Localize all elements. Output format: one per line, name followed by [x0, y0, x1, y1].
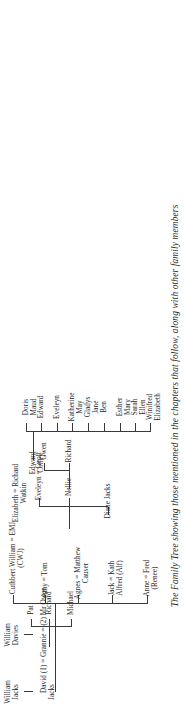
node-ben: Ben: [100, 401, 108, 413]
node-pat: Pat: [27, 605, 35, 614]
node-line: Diane Jacks: [104, 483, 112, 518]
tick-sarah: [135, 423, 136, 432]
node-william-jacks: William Jacks: [4, 680, 21, 704]
node-nellie: Nellie: [65, 478, 73, 496]
node-anne-fred: Anne = Fred (Renee): [143, 560, 160, 597]
node-cuthbert-emj: Cuthbert William = EMJ (CWJ): [9, 522, 26, 594]
node-agnes-matthew: Agnes = Matthew Causer: [74, 547, 91, 599]
node-line: Doris: [22, 399, 30, 416]
node-line: Alfred (Alf): [116, 560, 124, 596]
node-line: Mary: [124, 398, 132, 417]
node-katherine-may: Katherine May: [68, 393, 85, 422]
node-line: Jacks: [12, 680, 20, 704]
node-line: Elizabeth = Richard: [12, 464, 20, 523]
node-line: Causer: [82, 547, 90, 599]
sibling-spine-nellie: [44, 470, 69, 471]
node-line: Watkin: [20, 464, 28, 523]
tick-gladys: [88, 423, 89, 432]
node-line: (CWJ): [17, 522, 25, 594]
node-doris-maud: Doris Maud: [22, 399, 39, 416]
sibling-spine-cwj: [39, 506, 108, 507]
node-line: Ellen: [139, 399, 147, 416]
tick-jack: [112, 595, 113, 604]
tick-ben: [104, 423, 105, 432]
node-line: Anne = Fred: [143, 560, 151, 597]
family-tree-diagram: William Jacks William Davies David (1) =…: [0, 0, 186, 725]
tick-michael: [71, 619, 72, 627]
tick-richard-causer: [49, 619, 50, 627]
node-line: Jack = Kath: [108, 560, 116, 596]
connector-causer-descent: [49, 627, 50, 647]
node-line: Gwen: [40, 442, 48, 459]
node-gladys-jane: Gladys Jane: [84, 397, 101, 418]
connector-cwj-descent: [69, 507, 70, 529]
diagram-caption: The Family Tree showing those mentioned …: [170, 205, 180, 607]
node-line: Elizabeth: [154, 393, 162, 421]
connector-william-davies: [24, 634, 33, 635]
tick-nellie: [69, 498, 70, 507]
node-line: Katherine: [68, 393, 76, 422]
node-line: Gladys: [84, 397, 92, 418]
node-richard-causer: Richard: [45, 591, 53, 614]
tick-doris: [26, 423, 27, 432]
tick-cuthbert: [13, 595, 14, 604]
node-line: Ben: [100, 401, 108, 413]
tick-eveleyn-watkin: [57, 423, 58, 432]
family-tree-page: William Jacks William Davies David (1) =…: [0, 0, 186, 725]
tick-katherine: [72, 423, 73, 432]
rotated-canvas: William Jacks William Davies David (1) =…: [0, 0, 186, 725]
node-richard-nellie: Richard: [65, 439, 73, 462]
node-line: William: [4, 680, 12, 704]
node-michael: Michael: [67, 591, 75, 615]
node-line: Jane: [92, 397, 100, 418]
tick-edward: [41, 423, 42, 432]
node-line: William: [4, 623, 12, 647]
node-jack-kath: Jack = Kath Alfred (Alf): [108, 560, 125, 596]
node-line: Esther: [116, 398, 124, 417]
tick-esther: [120, 423, 121, 432]
node-elizabeth-watkin: Elizabeth = Richard Watkin: [12, 464, 29, 523]
tick-richard-nellie: [69, 463, 70, 471]
node-esther-mary: Esther Mary: [116, 398, 133, 417]
node-david-surname: Jacks: [48, 684, 56, 700]
tick-winifred: [150, 423, 151, 432]
node-winifred-elizabeth: Winifred Elizabeth: [146, 393, 163, 421]
node-line: Maud: [30, 399, 38, 416]
node-line: (Renee): [151, 560, 159, 597]
node-diane-jacks: Diane Jacks: [104, 483, 112, 518]
node-line: Nellie: [65, 478, 73, 496]
node-gwen: Gwen: [40, 442, 48, 459]
node-line: Richard: [65, 439, 73, 462]
node-line: Davies: [12, 623, 20, 647]
connector-william-jacks: [24, 691, 33, 692]
node-line: Michael: [67, 591, 75, 615]
node-line: Pat: [27, 605, 35, 614]
sibling-spine-gen3-owen: [13, 603, 147, 604]
node-sarah-ellen: Sarah Ellen: [131, 399, 148, 416]
node-line: Jacks: [48, 684, 56, 700]
sibling-spine-causer: [31, 626, 71, 627]
node-line: Eveleyn: [53, 395, 61, 419]
node-line: Cuthbert William = EMJ: [9, 522, 17, 594]
node-william-davies: William Davies: [4, 623, 21, 647]
tick-pat: [31, 619, 32, 627]
connector-grannie-descent: [55, 604, 56, 692]
node-line: May: [76, 393, 84, 422]
node-line: Richard: [45, 591, 53, 614]
node-eveleyn-watkin: Eveleyn: [53, 395, 61, 419]
